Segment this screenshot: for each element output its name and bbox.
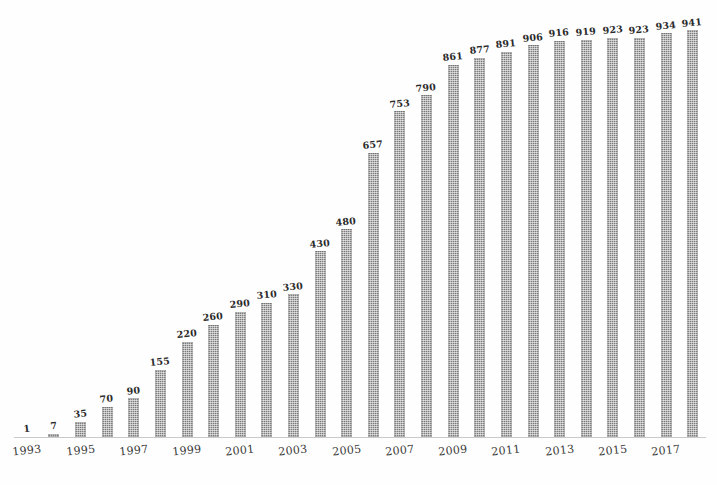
bar-group[interactable]: 70 xyxy=(94,394,120,437)
bar-value-label: 923 xyxy=(602,24,623,36)
x-tick-label: 2015 xyxy=(586,441,639,459)
x-tick-label: 2005 xyxy=(320,441,373,459)
bar-value-label: 877 xyxy=(469,44,490,56)
bar-rect[interactable] xyxy=(394,111,405,437)
bar-value-label: 1 xyxy=(23,424,31,434)
bar-group[interactable]: 790 xyxy=(414,83,440,437)
bar-value-label: 891 xyxy=(495,38,516,50)
x-tick-label: 2009 xyxy=(427,441,480,459)
bar-rect[interactable] xyxy=(687,30,698,437)
x-tick-label: 2007 xyxy=(373,441,426,459)
bar-value-label: 906 xyxy=(522,32,543,44)
x-tick-label: 2017 xyxy=(640,441,693,459)
bar-rect[interactable] xyxy=(208,325,219,437)
bar-group[interactable]: 220 xyxy=(174,329,200,437)
x-tick-label: 2001 xyxy=(214,441,267,459)
bar-group[interactable]: 934 xyxy=(653,21,679,437)
bar-group[interactable]: 916 xyxy=(547,28,573,437)
bar-group[interactable]: 90 xyxy=(121,386,147,437)
bar-value-label: 430 xyxy=(309,238,330,250)
bar-chart: 1735709015522026029031033043048065775379… xyxy=(0,0,717,485)
x-tick-label: 1999 xyxy=(160,441,213,459)
bar-rect[interactable] xyxy=(421,95,432,437)
bar-rect[interactable] xyxy=(261,303,272,437)
bar-rect[interactable] xyxy=(528,45,539,437)
bar-value-label: 220 xyxy=(176,328,197,340)
bar-group[interactable]: 753 xyxy=(387,99,413,437)
bar-value-label: 260 xyxy=(202,311,223,323)
bar-group[interactable]: 155 xyxy=(147,357,173,437)
bar-rect[interactable] xyxy=(368,153,379,437)
bar-group[interactable]: 906 xyxy=(520,33,546,437)
bar-value-label: 35 xyxy=(73,409,88,420)
bar-rect[interactable] xyxy=(607,38,618,437)
bar-group[interactable]: 310 xyxy=(254,290,280,437)
plot-area: 1735709015522026029031033043048065775379… xyxy=(0,0,717,485)
bar-value-label: 480 xyxy=(336,216,357,228)
x-tick-label: 1997 xyxy=(107,441,160,459)
bar-rect[interactable] xyxy=(155,370,166,437)
x-tick-label: 1993 xyxy=(1,441,54,459)
bar-rect[interactable] xyxy=(634,38,645,437)
bar-value-label: 916 xyxy=(548,27,569,39)
bar-value-label: 330 xyxy=(282,281,303,293)
bar-rect[interactable] xyxy=(341,229,352,437)
bar-value-label: 861 xyxy=(442,51,463,63)
bar-group[interactable]: 877 xyxy=(467,45,493,437)
bar-rect[interactable] xyxy=(102,407,113,437)
bar-rect[interactable] xyxy=(315,251,326,437)
bar-group[interactable]: 891 xyxy=(493,39,519,437)
bar-value-label: 934 xyxy=(655,20,676,32)
bar-value-label: 90 xyxy=(126,385,141,396)
x-axis-line xyxy=(14,437,706,438)
bar-value-label: 290 xyxy=(229,298,250,310)
bar-rect[interactable] xyxy=(554,41,565,437)
bar-rect[interactable] xyxy=(235,312,246,437)
x-tick-label: 2011 xyxy=(480,441,533,459)
bar-group[interactable]: 941 xyxy=(680,18,706,438)
bar-group[interactable]: 919 xyxy=(573,27,599,437)
bar-group[interactable]: 861 xyxy=(440,52,466,437)
bar-rect[interactable] xyxy=(128,398,139,437)
bar-rect[interactable] xyxy=(75,422,86,437)
bar-value-label: 941 xyxy=(682,16,703,28)
bar-group[interactable]: 35 xyxy=(68,409,94,437)
x-tick-label: 2003 xyxy=(267,441,320,459)
bar-group[interactable]: 923 xyxy=(626,25,652,437)
bar-value-label: 657 xyxy=(362,139,383,151)
bar-value-label: 923 xyxy=(628,24,649,36)
bar-group[interactable]: 430 xyxy=(307,239,333,437)
bar-rect[interactable] xyxy=(288,294,299,437)
bar-group[interactable]: 7 xyxy=(41,421,67,437)
bar-rect[interactable] xyxy=(581,40,592,437)
x-tick-label: 2013 xyxy=(533,441,586,459)
bar-group[interactable]: 480 xyxy=(334,217,360,437)
bar-group[interactable]: 260 xyxy=(201,312,227,437)
x-tick-label: 1995 xyxy=(54,441,107,459)
bar-value-label: 919 xyxy=(575,26,596,38)
bar-value-label: 7 xyxy=(50,421,58,431)
bar-group[interactable]: 657 xyxy=(360,140,386,437)
bar-value-label: 310 xyxy=(256,289,277,301)
bar-group[interactable]: 1 xyxy=(14,424,40,437)
bar-value-label: 753 xyxy=(389,98,410,110)
bar-rect[interactable] xyxy=(182,342,193,437)
bar-rect[interactable] xyxy=(474,58,485,437)
bar-rect[interactable] xyxy=(501,52,512,437)
bar-rect[interactable] xyxy=(661,33,672,437)
bar-group[interactable]: 330 xyxy=(280,282,306,437)
bar-group[interactable]: 923 xyxy=(600,25,626,437)
bar-value-label: 155 xyxy=(149,356,170,368)
bar-value-label: 70 xyxy=(99,394,114,405)
bar-rect[interactable] xyxy=(448,65,459,437)
bar-value-label: 790 xyxy=(415,82,436,94)
bar-group[interactable]: 290 xyxy=(227,299,253,437)
